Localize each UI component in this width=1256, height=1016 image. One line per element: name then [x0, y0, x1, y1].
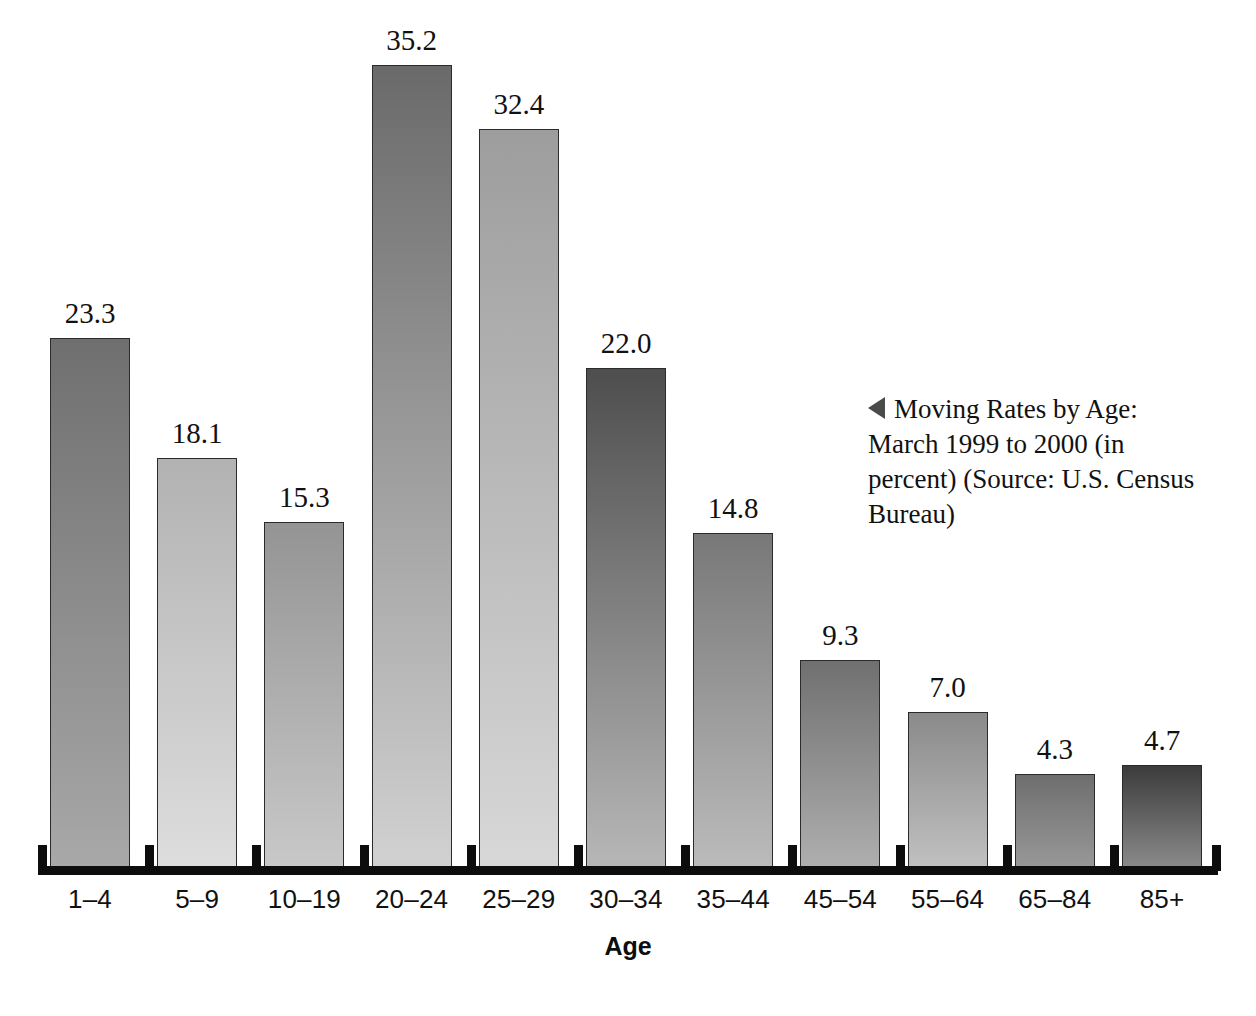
- bar-group: 9.3: [800, 660, 880, 873]
- x-axis-tick: [681, 845, 690, 871]
- bar[interactable]: [693, 533, 773, 873]
- x-axis-category-label: 85+: [1140, 884, 1185, 915]
- bar-value-label: 32.4: [493, 90, 544, 119]
- bar[interactable]: [479, 129, 559, 873]
- bar-group: 14.8: [693, 533, 773, 873]
- bar-value-label: 4.7: [1144, 726, 1180, 755]
- bar-group: 35.2: [372, 65, 452, 873]
- bar[interactable]: [1122, 765, 1202, 873]
- x-axis-category-label: 20–24: [375, 884, 448, 915]
- bar-group: 4.3: [1015, 774, 1095, 873]
- bar[interactable]: [800, 660, 880, 873]
- chart-page: 23.318.115.335.232.422.014.89.37.04.34.7…: [0, 0, 1256, 1016]
- bar[interactable]: [1015, 774, 1095, 873]
- bar-value-label: 22.0: [601, 329, 652, 358]
- x-axis-category-label: 25–29: [482, 884, 555, 915]
- bar-group: 18.1: [157, 458, 237, 873]
- bar-value-label: 7.0: [929, 673, 965, 702]
- x-axis-tick: [1110, 845, 1119, 871]
- x-axis-category-label: 5–9: [175, 884, 219, 915]
- bar-group: 22.0: [586, 368, 666, 873]
- bar[interactable]: [372, 65, 452, 873]
- bar[interactable]: [50, 338, 130, 873]
- bar-value-label: 9.3: [822, 621, 858, 650]
- x-axis-tick: [1003, 845, 1012, 871]
- bar-value-label: 35.2: [386, 26, 437, 55]
- x-axis-category-label: 65–84: [1018, 884, 1091, 915]
- bar-value-label: 23.3: [65, 299, 116, 328]
- x-axis-tick: [574, 845, 583, 871]
- bar-group: 32.4: [479, 129, 559, 873]
- left-triangle-marker-icon: [868, 397, 885, 419]
- bar-value-label: 14.8: [708, 494, 759, 523]
- chart-caption: Moving Rates by Age: March 1999 to 2000 …: [868, 392, 1208, 532]
- bar-group: 7.0: [908, 712, 988, 873]
- bar-value-label: 18.1: [172, 419, 223, 448]
- bar-group: 4.7: [1122, 765, 1202, 873]
- bar[interactable]: [586, 368, 666, 873]
- bar[interactable]: [157, 458, 237, 873]
- bar[interactable]: [264, 522, 344, 873]
- x-axis-category-label: 45–54: [804, 884, 877, 915]
- x-axis-category-label: 30–34: [589, 884, 662, 915]
- x-axis-category-label: 35–44: [697, 884, 770, 915]
- x-axis-category-label: 55–64: [911, 884, 984, 915]
- bar-value-label: 4.3: [1037, 735, 1073, 764]
- x-axis-tick: [252, 845, 261, 871]
- bar-group: 15.3: [264, 522, 344, 873]
- x-axis-category-label: 10–19: [268, 884, 341, 915]
- x-axis-tick: [896, 845, 905, 871]
- x-axis-line: [38, 866, 1218, 875]
- bar-group: 23.3: [50, 338, 130, 873]
- x-axis-tick: [360, 845, 369, 871]
- bar-value-label: 15.3: [279, 483, 330, 512]
- bar[interactable]: [908, 712, 988, 873]
- x-axis-tick: [788, 845, 797, 871]
- x-axis-title: Age: [604, 932, 651, 961]
- x-axis-tick: [1212, 845, 1221, 871]
- x-axis-tick: [467, 845, 476, 871]
- x-axis-category-label: 1–4: [68, 884, 112, 915]
- x-axis-tick: [38, 845, 47, 871]
- x-axis-tick: [145, 845, 154, 871]
